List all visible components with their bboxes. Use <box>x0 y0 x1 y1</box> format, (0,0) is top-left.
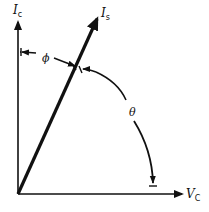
label-phi: ϕ <box>42 52 50 65</box>
label-ic: Ic <box>12 3 22 19</box>
phasor-diagram: Ic Is VC ϕ θ <box>0 0 209 212</box>
label-vc: VC <box>186 187 201 203</box>
label-is: Is <box>100 6 110 22</box>
label-theta: θ <box>129 106 136 119</box>
vector-is <box>18 19 97 194</box>
theta-arc <box>79 66 157 186</box>
